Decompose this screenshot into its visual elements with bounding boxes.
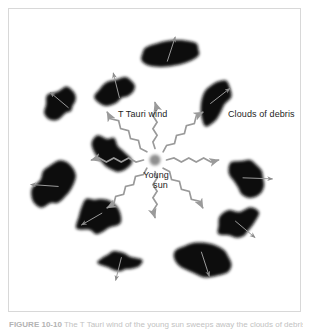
label-clouds-of-debris: Clouds of debris (228, 109, 295, 119)
diagram-canvas (8, 8, 301, 312)
figure-root: T Tauri wind Clouds of debris Young sun … (0, 0, 310, 331)
debris-blob-upper-left (44, 87, 76, 121)
figure-caption-text: The T Tauri wind of the young sun sweeps… (64, 320, 303, 329)
debris-blob-bottom (174, 242, 232, 277)
sun-layer (150, 155, 161, 166)
label-young-sun: Young sun (133, 170, 179, 190)
label-young-sun-line2: sun (142, 180, 179, 190)
debris-blob-left (31, 160, 76, 207)
label-t-tauri-wind: T Tauri wind (118, 109, 167, 119)
debris-blob-upper-right (201, 80, 232, 126)
young-sun (150, 155, 161, 166)
debris-blob-upper-mid (94, 77, 135, 106)
wind-arrow-e (167, 158, 219, 162)
label-young-sun-line1: Young (133, 170, 179, 180)
wind-arrow-ne (163, 112, 203, 152)
debris-blob-right-lower (218, 207, 260, 238)
debris-blob-bottom-mid (97, 251, 142, 271)
debris-blob-layer (31, 40, 264, 277)
figure-caption-label: FIGURE 10-10 (9, 320, 62, 329)
debris-blob-lower-left (92, 135, 133, 172)
figure-caption: FIGURE 10-10 The T Tauri wind of the you… (9, 320, 303, 330)
